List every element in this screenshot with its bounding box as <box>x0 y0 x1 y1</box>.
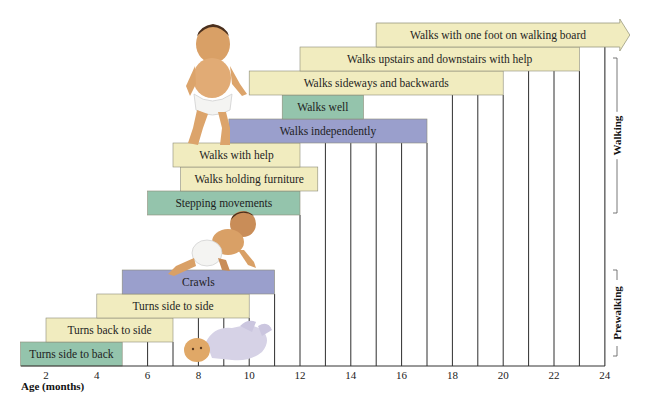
crawling-baby-illustration <box>168 211 256 276</box>
milestone-bar: Stepping movements <box>148 191 300 215</box>
x-tick-label: 6 <box>145 369 151 381</box>
x-tick-label: 12 <box>295 369 306 381</box>
phase-brackets: WalkingPrewalking <box>611 58 623 356</box>
bar-label: Turns side to side <box>132 300 213 312</box>
bar-label: Turns side to back <box>29 348 113 360</box>
milestone-bar: Turns back to side <box>46 318 173 342</box>
x-tick-label: 22 <box>549 369 560 381</box>
bar-label: Stepping movements <box>175 197 272 210</box>
milestone-bar: Walks upstairs and downstairs with help <box>300 47 579 71</box>
bar-label: Walks with help <box>199 149 274 162</box>
bar-label: Walks upstairs and downstairs with help <box>347 53 533 66</box>
milestone-bar: Walks with one foot on walking board <box>376 19 630 51</box>
motor-milestones-chart: Turns side to backTurns back to sideTurn… <box>0 0 645 403</box>
bar-label: Walks with one foot on walking board <box>410 29 586 42</box>
milestone-bar: Walks independently <box>229 119 427 143</box>
x-axis-ticks: 24681012141618202224 <box>43 369 611 381</box>
milestone-bar: Turns side to side <box>97 294 249 318</box>
milestone-bar: Walks well <box>282 95 363 119</box>
x-tick-label: 16 <box>396 369 408 381</box>
x-tick-label: 14 <box>345 369 357 381</box>
x-tick-label: 18 <box>447 369 459 381</box>
milestone-bar: Walks holding furniture <box>181 167 318 191</box>
bar-label: Walks well <box>297 101 348 113</box>
bar-label: Walks holding furniture <box>194 173 304 186</box>
milestone-bar: Walks with help <box>173 143 300 167</box>
bar-label: Walks sideways and backwards <box>304 77 450 90</box>
milestone-bar: Turns side to back <box>21 342 123 366</box>
phase-label: Walking <box>611 115 623 155</box>
x-tick-label: 4 <box>94 369 100 381</box>
bar-label: Crawls <box>182 276 215 288</box>
milestone-bar: Crawls <box>122 270 274 294</box>
x-axis: 24681012141618202224 Age (months) <box>21 366 611 393</box>
lying-baby-illustration <box>184 321 272 362</box>
phase-bracket-walking: Walking <box>611 58 623 213</box>
phase-bracket-prewalking: Prewalking <box>611 270 623 356</box>
x-axis-title: Age (months) <box>21 380 85 393</box>
x-tick-label: 24 <box>599 369 611 381</box>
x-tick-label: 20 <box>498 369 510 381</box>
milestone-bar: Walks sideways and backwards <box>249 71 503 95</box>
x-tick-label: 8 <box>196 369 202 381</box>
bar-label: Walks independently <box>280 125 377 138</box>
x-tick-label: 10 <box>244 369 256 381</box>
bar-label: Turns back to side <box>67 324 151 336</box>
phase-label: Prewalking <box>611 286 623 340</box>
